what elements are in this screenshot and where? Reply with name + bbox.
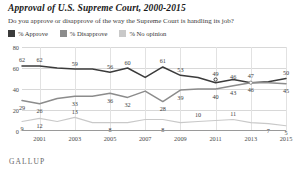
x-axis-tick-label: 2005 <box>104 135 117 142</box>
y-axis-tick-label: 80 <box>13 44 19 51</box>
data-point-label: 46 <box>248 86 254 93</box>
data-point-label: 13 <box>72 107 78 114</box>
data-point-label: 45 <box>283 87 289 94</box>
legend-label: % No opinion <box>129 30 166 37</box>
data-point-marker <box>249 81 252 84</box>
plot-area: 6262595660615349464750292633363228394043… <box>22 47 286 131</box>
data-point-label: 28 <box>160 105 166 112</box>
data-point-label: 32 <box>125 100 131 107</box>
legend-item: % Disapprove <box>60 30 108 37</box>
x-axis-tick-label: 2007 <box>139 135 152 142</box>
line-series <box>22 66 286 83</box>
data-point-label: 56 <box>107 62 113 69</box>
x-axis-line <box>22 130 286 131</box>
data-point-label: 33 <box>72 99 78 106</box>
line-series-layer <box>22 47 286 131</box>
page-title: Approval of U.S. Supreme Court, 2000-201… <box>8 3 186 13</box>
legend-swatch-icon <box>8 30 15 37</box>
y-axis-tick-label: 40 <box>13 86 19 93</box>
legend-swatch-icon <box>60 30 67 37</box>
line-series <box>22 83 286 104</box>
x-axis-tick-label: 2013 <box>245 135 258 142</box>
data-point-label: 11 <box>230 109 236 116</box>
legend-label: % Approve <box>18 30 48 37</box>
data-point-label: 49 <box>213 70 219 77</box>
data-point-label: 50 <box>283 69 289 76</box>
x-axis-tick-label: 2003 <box>69 135 82 142</box>
chart-legend: % Approve% Disapprove% No opinion <box>8 30 178 37</box>
x-axis-tick-label: 2015 <box>280 135 293 142</box>
data-point-marker <box>214 78 217 81</box>
x-axis-tick-label: 2011 <box>209 135 221 142</box>
y-axis-tick-label: 60 <box>13 65 19 72</box>
data-point-label: 29 <box>19 104 25 111</box>
y-axis-tick-label: 0 <box>16 128 19 135</box>
data-point-label: 53 <box>177 65 183 72</box>
chart-subtitle: Do you approve or disapprove of the way … <box>8 17 234 25</box>
data-point-label: 46 <box>230 73 236 80</box>
legend-item: % No opinion <box>119 30 166 37</box>
line-series <box>22 117 286 125</box>
data-point-label: 60 <box>125 58 131 65</box>
x-axis-tick-label: 2001 <box>33 135 46 142</box>
y-axis-tick-label: 20 <box>13 107 19 114</box>
data-point-label: 47 <box>248 72 254 79</box>
legend-swatch-icon <box>119 30 126 37</box>
data-point-label: 62 <box>37 56 43 63</box>
data-point-label: 62 <box>19 56 25 63</box>
legend-item: % Approve <box>8 30 48 37</box>
gallup-logo: GALLUP <box>9 157 45 166</box>
data-point-label: 12 <box>37 121 43 128</box>
legend-label: % Disapprove <box>70 30 108 37</box>
data-point-label: 61 <box>160 57 166 64</box>
chart-card: Approval of U.S. Supreme Court, 2000-201… <box>0 0 300 176</box>
data-point-label: 43 <box>230 89 236 96</box>
data-point-label: 26 <box>37 107 43 114</box>
data-point-label: 10 <box>195 111 201 118</box>
data-point-label: 36 <box>107 96 113 103</box>
data-point-label: 59 <box>72 59 78 66</box>
data-point-label: 39 <box>177 93 183 100</box>
x-axis-tick-label: 2009 <box>174 135 187 142</box>
data-point-label: 40 <box>213 92 219 99</box>
